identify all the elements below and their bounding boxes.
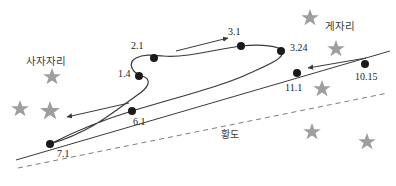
star-icon xyxy=(43,68,61,84)
dot-3-24 xyxy=(277,47,285,55)
date-label-3-24: 3.24 xyxy=(290,42,308,53)
dot-11-1 xyxy=(293,69,301,77)
star-icon xyxy=(40,101,60,119)
date-label-10-15: 10.15 xyxy=(355,71,378,82)
apparent-planet-path xyxy=(50,45,282,144)
ecliptic-line xyxy=(18,93,388,168)
celestial-reference-line xyxy=(16,51,390,160)
constellation-label-leo: 사자자리 xyxy=(26,53,66,68)
star-icon xyxy=(327,40,345,56)
star-icon xyxy=(313,80,331,96)
date-label-7-1: 7.1 xyxy=(57,148,70,159)
date-label-6-1: 6.1 xyxy=(133,116,146,127)
dot-1-4 xyxy=(135,72,143,80)
star-icon xyxy=(358,133,376,149)
date-label-11-1: 11.1 xyxy=(285,82,302,93)
planet-position-dots xyxy=(46,42,369,148)
date-label-2-1: 2.1 xyxy=(131,40,144,51)
background-stars xyxy=(11,9,376,149)
dot-10-15 xyxy=(361,60,369,68)
dot-3-1 xyxy=(237,42,245,50)
star-icon xyxy=(301,9,319,25)
retrograde-motion-figure: 사자자리 게자리 황도 1.4 2.1 3.1 3.24 11.1 10.15 … xyxy=(0,0,396,186)
date-label-1-4: 1.4 xyxy=(118,68,131,79)
dot-2-1 xyxy=(150,54,158,62)
dot-6-1 xyxy=(128,107,136,115)
star-icon xyxy=(303,123,321,139)
date-label-3-1: 3.1 xyxy=(228,26,241,37)
dot-7-1 xyxy=(46,140,54,148)
star-icon xyxy=(11,100,29,116)
ecliptic-label: 황도 xyxy=(221,126,239,141)
constellation-label-cancer: 게자리 xyxy=(325,18,355,33)
